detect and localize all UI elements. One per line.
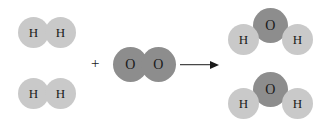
hydrogen-atom: H xyxy=(45,78,76,109)
plus-operator: + xyxy=(91,56,99,71)
reaction-diagram: H H H H + O O O H xyxy=(0,0,325,128)
atom-label: O xyxy=(153,58,163,72)
atom-label: H xyxy=(293,97,303,110)
hydrogen-atom: H xyxy=(45,17,76,48)
reaction-arrow-icon xyxy=(180,59,219,70)
arrow-shaft xyxy=(180,64,213,66)
hydrogen-atom: H xyxy=(228,24,259,55)
water-molecule-2: O H H xyxy=(228,72,313,119)
atom-label: H xyxy=(29,26,39,39)
hydrogen-molecule-1: H H xyxy=(18,17,76,48)
atom-label: O xyxy=(125,58,135,72)
water-molecule-1: O H H xyxy=(228,8,313,55)
hydrogen-atom: H xyxy=(228,88,259,119)
atom-label: O xyxy=(265,19,275,33)
atom-label: O xyxy=(265,83,275,97)
atom-label: H xyxy=(29,87,39,100)
atom-label: H xyxy=(239,33,249,46)
hydrogen-atom: H xyxy=(282,88,313,119)
hydrogen-atom: H xyxy=(282,24,313,55)
oxygen-molecule: O O xyxy=(113,47,176,82)
hydrogen-molecule-2: H H xyxy=(18,78,76,109)
oxygen-atom: O xyxy=(141,47,176,82)
atom-label: H xyxy=(56,26,66,39)
atom-label: H xyxy=(56,87,66,100)
atom-label: H xyxy=(293,33,303,46)
atom-label: H xyxy=(239,97,249,110)
arrow-head xyxy=(210,61,219,69)
